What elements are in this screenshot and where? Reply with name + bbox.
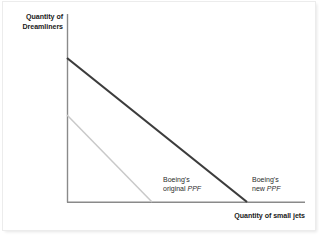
original-ppf-label-line-2: original PPF [163,184,201,193]
new-ppf-label-prefix: new [252,185,267,192]
original-ppf-label-acronym: PPF [188,185,202,192]
original-ppf-label: Boeing's original PPF [163,175,201,194]
y-axis-title-line-2: Dreamliners [0,23,63,33]
original-ppf-line [67,115,152,202]
new-ppf-label: Boeing's new PPF [252,175,280,194]
ppf-figure-card: Quantity of Dreamliners Quantity of smal… [0,0,319,235]
original-ppf-label-prefix: original [163,185,188,192]
ppf-chart-svg [0,0,319,235]
new-ppf-label-line-2: new PPF [252,184,280,193]
new-ppf-label-acronym: PPF [267,185,281,192]
x-axis-title: Quantity of small jets [150,212,305,222]
original-ppf-label-line-1: Boeing's [163,175,201,184]
plot-area: Quantity of Dreamliners Quantity of smal… [0,0,319,235]
new-ppf-line [67,58,247,202]
new-ppf-label-line-1: Boeing's [252,175,280,184]
y-axis-title: Quantity of Dreamliners [0,13,63,32]
y-axis-title-line-1: Quantity of [0,13,63,23]
